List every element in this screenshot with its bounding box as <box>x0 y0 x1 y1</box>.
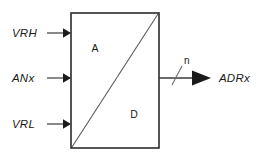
input-arrowhead-vrh <box>63 28 71 38</box>
bus-width-label: n <box>184 55 190 66</box>
input-label-vrl: VRL <box>12 118 35 130</box>
input-arrowhead-vrl <box>63 119 71 129</box>
adc-block-diagram: A D VRH ANx VRL n ADRx <box>0 0 279 166</box>
input-label-vrh: VRH <box>12 27 37 39</box>
analog-region-label: A <box>91 42 98 54</box>
digital-region-label: D <box>130 108 138 120</box>
diagram-canvas: A D VRH ANx VRL n ADRx <box>0 0 279 166</box>
output-arrowhead-adrx <box>192 71 211 86</box>
input-label-anx: ANx <box>11 72 35 84</box>
bus-width-slash <box>172 66 182 85</box>
output-label-adrx: ADRx <box>218 72 251 84</box>
input-arrowhead-anx <box>63 73 71 83</box>
